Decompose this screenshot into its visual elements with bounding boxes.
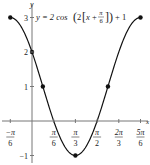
y-axis-label: y (29, 0, 34, 9)
paren-close: ) (109, 10, 113, 24)
data-point (106, 84, 110, 88)
x-tick-num: 5π (136, 128, 145, 137)
x-tick-den: 3 (117, 139, 121, 148)
x-tick-num: π (52, 128, 57, 137)
inner-coef: 2 (77, 12, 81, 22)
data-point (8, 15, 12, 19)
x-axis-label: x (145, 118, 150, 126)
x-tick-den: 6 (52, 139, 56, 148)
y-tick-label: −1 (19, 152, 28, 161)
data-point (138, 15, 142, 19)
y-tick-label: 3 (24, 14, 28, 23)
equation-label: y = 2 cos(2[x+π6])+ 1 (35, 9, 126, 24)
equation-lhs: y = 2 cos (35, 12, 68, 22)
frac-num: π (99, 9, 103, 16)
x-tick-num: π (95, 128, 100, 137)
data-point (73, 153, 77, 157)
x-tick-num: π (73, 128, 78, 137)
y-tick-label: 2 (24, 48, 28, 57)
x-tick-num: −π (6, 128, 16, 137)
x-tick-den: 6 (139, 139, 143, 148)
x-tick-den: 2 (95, 139, 99, 148)
x-tick-den: 6 (8, 139, 12, 148)
equation-tail: + 1 (115, 12, 126, 22)
x-var: x (85, 12, 90, 22)
x-tick-den: 3 (73, 139, 77, 148)
cosine-graph: xy −π6π6π3π22π35π6321−1 y = 2 cos(2[x+π6… (0, 0, 150, 165)
y-tick-label: 1 (24, 83, 28, 92)
tick-labels: −π6π6π3π22π35π6321−1 (6, 14, 146, 161)
frac-den: 6 (99, 17, 103, 24)
data-point (41, 84, 45, 88)
x-tick-num: 2π (115, 128, 124, 137)
plus: + (92, 12, 97, 22)
